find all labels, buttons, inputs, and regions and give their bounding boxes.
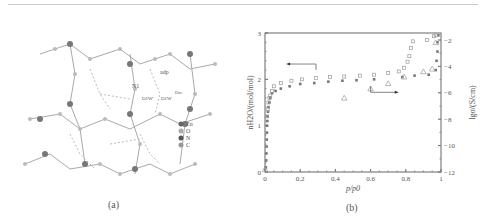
x-axis-label: p/p0 [345,184,360,193]
label-adp: adp [160,69,169,75]
y-right-tick-label: −8 [444,116,452,124]
y-tick-label: 1 [258,122,262,130]
y-tick-label: 2 [258,76,262,84]
label-o1w-prime: O1W' [142,96,154,101]
right-axis-arrow [371,86,399,94]
structure-legend: Zn O N C [179,121,193,148]
y-right-tick-label: −10 [444,142,455,150]
series-filled-square [265,34,440,169]
y-right-tick-label: −2 [444,37,452,45]
isotherm-conductivity-chart: 00.20.40.60.810123−2−4−6−8−10−12p/p0nH2O… [243,0,486,221]
label-n1: N1 [132,83,139,89]
x-tick-label: 0.2 [296,175,305,183]
svg-text:Zn: Zn [186,121,193,127]
label-o1w: O1W [161,96,172,101]
plot-frame [265,33,441,172]
panel-b-chart: 00.20.40.60.810123−2−4−6−8−10−12p/p0nH2O… [243,0,486,221]
left-axis-arrow [286,63,316,71]
x-tick-label: 0.6 [366,175,375,183]
svg-text:O: O [186,128,191,134]
y-right-tick-label: −4 [444,63,452,71]
y-right-tick-label: −12 [444,169,455,177]
y-right-tick-label: −6 [444,89,452,97]
x-tick-label: 0.8 [401,175,410,183]
y-right-axis-label: lgσ/(S/cm) [468,85,477,120]
crystal-structure-diagram: adp N1 O1W' O1W Ow Zn O N C [10,14,235,189]
y-tick-label: 3 [258,30,262,38]
panel-b-caption: (b) [346,202,358,213]
y-axis-label: nH2O/(mol/mol) [246,75,255,130]
svg-text:N: N [186,135,191,141]
x-tick-label: 0.4 [331,175,340,183]
series-open-triangle [262,40,438,172]
x-tick-label: 0 [263,175,267,183]
series-open-square [265,34,437,118]
panel-a-caption: (a) [108,199,119,210]
y-tick-label: 0 [258,169,262,177]
svg-text:C: C [186,142,190,148]
label-ow: Ow [175,90,183,95]
panel-a-structure: adp N1 O1W' O1W Ow Zn O N C [10,14,235,189]
x-tick-label: 1 [439,175,443,183]
